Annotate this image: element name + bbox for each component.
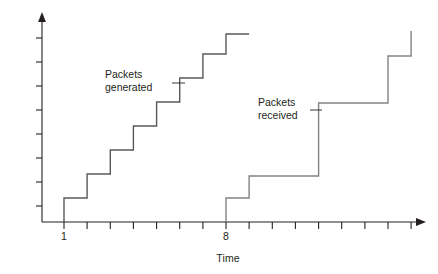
series-label-packets-generated-line1: Packets <box>105 68 152 81</box>
x-tick-label-8: 8 <box>216 230 236 242</box>
series-label-packets-received: Packets received <box>258 96 298 122</box>
series-label-packets-generated-line2: generated <box>105 81 152 94</box>
series-label-packets-received-line1: Packets <box>258 96 298 109</box>
series-label-packets-received-line2: received <box>258 109 298 122</box>
series-packets-received <box>226 31 411 222</box>
x-axis-ticks <box>64 222 411 229</box>
step-chart-figure: Packets Time 1 8 Packets generated Packe… <box>0 0 438 274</box>
series-label-packets-generated: Packets generated <box>105 68 152 94</box>
x-axis-arrowhead <box>416 218 426 226</box>
x-axis-title: Time <box>196 252 260 264</box>
y-axis-ticks <box>36 38 42 206</box>
series-packets-generated <box>64 34 249 222</box>
x-tick-label-1: 1 <box>54 230 74 242</box>
y-axis-arrowhead <box>38 12 46 22</box>
axes-group <box>38 12 426 226</box>
